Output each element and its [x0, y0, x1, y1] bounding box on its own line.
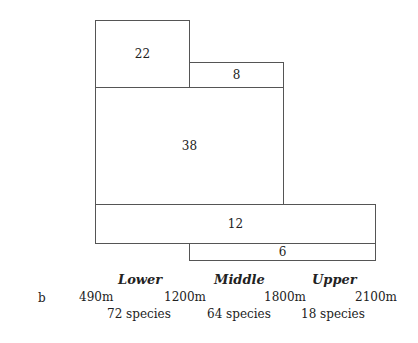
- box-value: 12: [228, 217, 243, 231]
- box-value: 8: [233, 68, 241, 82]
- elevation-490: 490m: [79, 290, 113, 304]
- box-8: 8: [189, 62, 284, 88]
- zone-upper: Upper: [312, 272, 357, 287]
- elevation-1200: 1200m: [164, 290, 206, 304]
- box-value: 22: [135, 47, 150, 61]
- zone-lower: Lower: [118, 272, 162, 287]
- elevation-2100: 2100m: [355, 290, 397, 304]
- zone-middle: Middle: [214, 272, 265, 287]
- box-22: 22: [95, 20, 190, 88]
- box-value: 6: [279, 245, 287, 259]
- box-12: 12: [95, 204, 376, 244]
- box-6: 6: [189, 243, 376, 261]
- species-lower: 72 species: [107, 307, 171, 321]
- box-38: 38: [95, 87, 284, 205]
- panel-label: b: [38, 291, 46, 305]
- species-middle: 64 species: [207, 307, 271, 321]
- elevation-1800: 1800m: [264, 290, 306, 304]
- species-upper: 18 species: [301, 307, 365, 321]
- box-value: 38: [182, 139, 197, 153]
